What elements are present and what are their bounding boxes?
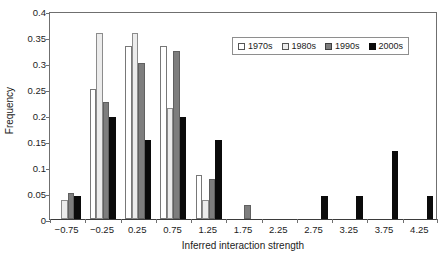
y-tick-label: 0.3 [16,59,46,70]
x-tick-label: −0.75 [55,224,79,235]
x-tick-mark [85,219,86,223]
bar-1990s-1.25 [209,179,216,219]
frequency-histogram-figure: Frequency 00.050.10.150.20.250.30.350.4 … [0,0,445,267]
x-tick-label: −0.25 [90,224,114,235]
x-tick-label: 4.25 [410,224,429,235]
x-axis-title: Inferred interaction strength [49,240,437,251]
legend-label-1980s: 1980s [292,41,317,51]
legend-swatch-1980s [282,43,289,50]
y-axis-tick-labels: 00.050.10.150.20.250.30.350.4 [16,12,46,220]
y-axis-title-text: Frequency [5,86,16,133]
bar-2000s--0.25 [109,117,116,219]
y-tick-mark [46,39,50,40]
bar-2000s-0.75 [180,117,187,219]
y-tick-mark [46,13,50,14]
x-tick-mark [403,219,404,223]
x-tick-mark [262,219,263,223]
bar-1990s--0.75 [68,193,75,219]
x-tick-mark [332,219,333,223]
y-tick-mark [46,91,50,92]
y-tick-label: 0.15 [16,137,46,148]
legend-item-1980s: 1980s [282,41,317,51]
bar-1970s-0.25 [125,46,132,219]
y-tick-label: 0 [16,215,46,226]
bar-1980s--0.25 [96,33,103,219]
y-tick-mark [46,117,50,118]
legend-item-2000s: 2000s [369,41,404,51]
bar-1970s-0.75 [160,46,167,219]
y-tick-mark [46,143,50,144]
bar-1980s-1.25 [202,200,209,219]
bar-1970s--0.25 [90,89,97,219]
legend-swatch-1990s [325,43,332,50]
bar-2000s-1.25 [215,140,222,219]
x-tick-mark [156,219,157,223]
y-tick-label: 0.2 [16,111,46,122]
x-tick-mark [121,219,122,223]
y-tick-label: 0.1 [16,163,46,174]
x-tick-label: 3.75 [375,224,394,235]
legend-label-1970s: 1970s [248,41,273,51]
x-tick-mark [226,219,227,223]
bar-2000s-2.75 [321,196,328,219]
x-tick-label: 0.75 [163,224,182,235]
legend-label-2000s: 2000s [379,41,404,51]
x-tick-mark [367,219,368,223]
y-tick-label: 0.05 [16,189,46,200]
x-tick-label: 1.75 [234,224,253,235]
y-tick-label: 0.4 [16,7,46,18]
bar-1990s-1.75 [244,205,251,219]
x-tick-label: 1.25 [198,224,217,235]
legend-item-1970s: 1970s [238,41,273,51]
legend-swatch-1970s [238,43,245,50]
y-tick-mark [46,65,50,66]
x-tick-mark [437,219,438,223]
x-axis-tick-labels: −0.75−0.250.250.751.251.752.252.753.253.… [49,224,437,238]
bar-2000s-3.75 [392,151,399,219]
y-tick-label: 0.25 [16,85,46,96]
legend-item-1990s: 1990s [325,41,360,51]
x-tick-label: 3.25 [340,224,359,235]
legend-swatch-2000s [369,43,376,50]
bar-2000s-3.25 [356,196,363,219]
y-tick-label: 0.35 [16,33,46,44]
x-tick-label: 2.25 [269,224,288,235]
chart-legend: 1970s 1980s 1990s 2000s [232,37,409,55]
bar-1980s-0.75 [167,108,174,219]
legend-label-1990s: 1990s [335,41,360,51]
bar-2000s-0.25 [145,140,152,219]
bar-2000s-4.25 [427,196,434,219]
y-tick-mark [46,195,50,196]
x-tick-mark [50,219,51,223]
bar-2000s--0.75 [74,196,81,219]
x-tick-mark [191,219,192,223]
y-tick-mark [46,169,50,170]
x-tick-label: 2.75 [304,224,323,235]
bar-1990s-0.25 [138,63,145,219]
x-tick-mark [297,219,298,223]
x-tick-label: 0.25 [128,224,147,235]
